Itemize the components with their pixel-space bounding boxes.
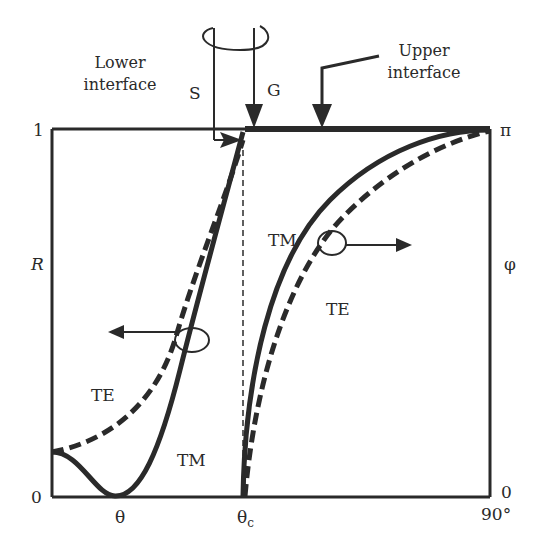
right-bottom-tick: 0 — [501, 484, 512, 501]
x-tick-theta-c: θc — [237, 509, 254, 529]
g-label: G — [267, 82, 281, 99]
right-tm-curve — [243, 130, 490, 496]
left-tm-label: TM — [177, 452, 206, 469]
left-te-label: TE — [91, 387, 115, 404]
right-curves-group-marker — [318, 231, 412, 255]
upper-interface-line1: Upper — [384, 40, 464, 62]
s-polarization-label: S — [189, 85, 201, 102]
lower-interface-label: Lower interface — [80, 52, 160, 96]
right-top-tick: π — [500, 122, 511, 139]
upper-interface-pointer — [312, 56, 379, 128]
upper-interface-label: Upper interface — [384, 40, 464, 84]
left-te-curve — [52, 140, 243, 452]
x-tick-theta-c-base: θ — [237, 507, 247, 527]
right-te-curve — [245, 131, 490, 496]
y-axis-right-label: φ — [504, 256, 516, 273]
lower-interface-line1: Lower — [80, 52, 160, 74]
upper-interface-line2: interface — [384, 62, 464, 84]
right-te-label: TE — [326, 301, 350, 318]
x-tick-theta: θ — [115, 509, 125, 526]
left-top-tick: 1 — [33, 122, 44, 139]
left-tm-curve — [52, 132, 243, 496]
right-tm-label: TM — [268, 232, 297, 249]
left-bottom-tick: 0 — [31, 489, 42, 506]
x-tick-end: 90° — [481, 506, 511, 523]
y-axis-left-label: R — [31, 256, 44, 273]
left-curves-group-marker — [108, 325, 209, 352]
x-tick-theta-c-sub: c — [247, 516, 254, 530]
lower-interface-line2: interface — [80, 74, 160, 96]
